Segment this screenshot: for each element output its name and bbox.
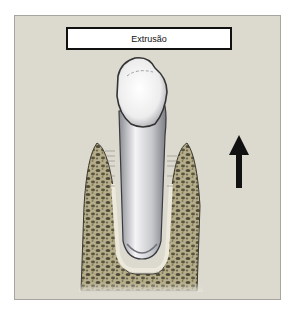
tooth-extrusion-illustration: [15, 16, 282, 301]
arrow-up-icon: [229, 135, 249, 188]
diagram-panel: Extrusão: [14, 15, 281, 300]
tooth: [117, 58, 167, 259]
